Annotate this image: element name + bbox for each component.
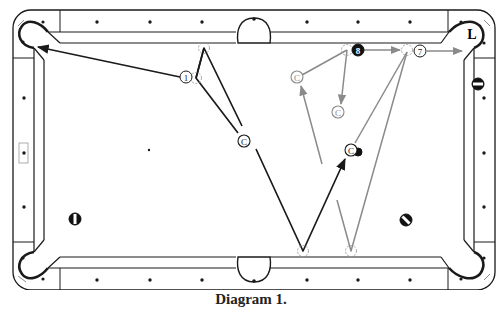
stripe-right-top [472,78,484,90]
diamond-marker [305,20,308,23]
cue-ball-label: C [335,108,341,118]
stripe-right [400,214,412,226]
cue-ball-label: C [294,73,300,83]
diagram-caption: Diagram 1. [0,291,502,308]
diamond-marker [408,278,411,281]
diamond-marker [305,278,308,281]
diamond-marker [356,20,359,23]
cue-ball-label: C [348,146,354,156]
ball-8: 8 [352,44,364,56]
ball-1: 1 [180,71,192,83]
pool-table-diagram: L 187 CCCC [0,0,502,290]
ball-7: 7 [414,45,426,57]
foot-spot [148,149,150,151]
cue-grey-2: C [332,106,344,118]
diamond-marker [95,278,98,281]
ball-number: 1 [184,73,189,83]
diamond-marker [22,151,25,154]
cue-black-2: C [345,144,357,156]
diamond-marker [200,20,203,23]
diamond-marker [95,20,98,23]
diamond-marker [356,278,359,281]
ball-number: 8 [356,46,361,56]
diamond-marker [200,278,203,281]
diamond-marker [482,205,485,208]
diamond-marker [148,278,151,281]
diamond-marker [408,20,411,23]
cue-grey-1: C [291,71,303,83]
ball-number: 7 [418,47,423,57]
diamond-marker [22,205,25,208]
pocket-label-l: L [467,27,476,42]
stripe-left [69,213,81,225]
diamond-marker [482,96,485,99]
diamond-marker [22,96,25,99]
cue-black-1: C [238,135,250,147]
diamond-marker [482,151,485,154]
cue-ball-label: C [241,137,247,147]
diamond-marker [148,20,151,23]
